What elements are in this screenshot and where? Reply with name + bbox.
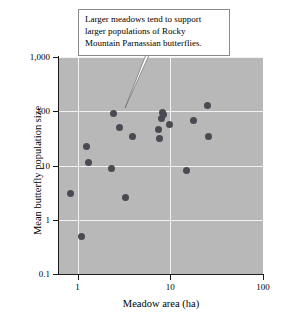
data-point xyxy=(85,159,92,166)
callout-line-3: Mountain Parnassian butterflies. xyxy=(85,38,223,50)
data-point xyxy=(129,133,136,140)
x-axis-tick xyxy=(263,274,264,280)
data-point xyxy=(110,110,117,117)
y-axis-tick xyxy=(53,220,59,221)
y-axis-tick xyxy=(53,57,59,58)
x-axis-tick-label: 100 xyxy=(256,283,270,292)
data-point xyxy=(156,135,163,142)
y-axis-tick-label: 100 xyxy=(0,107,50,116)
gridline-vertical xyxy=(170,57,171,274)
data-point xyxy=(67,190,74,197)
x-axis-tick-label: 1 xyxy=(75,283,80,292)
y-axis-tick xyxy=(53,111,59,112)
x-axis-tick xyxy=(170,274,171,280)
data-point xyxy=(155,126,162,133)
plot-area xyxy=(59,57,263,274)
callout-line-1: Larger meadows tend to support xyxy=(85,14,223,26)
data-point xyxy=(183,167,190,174)
y-axis-tick-label: 1 xyxy=(0,215,50,224)
data-point xyxy=(116,124,123,131)
y-axis-tick-label: 0.1 xyxy=(0,270,50,279)
data-point xyxy=(190,117,197,124)
data-point xyxy=(205,133,212,140)
data-point xyxy=(108,165,115,172)
data-point xyxy=(122,194,129,201)
scatter-plot-figure: 0.11101001,000110100 Mean butterfly popu… xyxy=(0,0,291,320)
y-axis-tick-label: 10 xyxy=(0,161,50,170)
y-axis-tick-label: 1,000 xyxy=(0,53,50,62)
x-axis-title: Meadow area (ha) xyxy=(59,298,263,309)
data-point xyxy=(78,233,85,240)
y-axis-tick xyxy=(53,166,59,167)
callout-line-2: larger populations of Rocky xyxy=(85,26,223,38)
gridline-horizontal xyxy=(59,57,263,58)
data-point xyxy=(160,111,167,118)
trend-callout-box: Larger meadows tend to support larger po… xyxy=(78,9,230,56)
y-axis-tick xyxy=(53,274,59,275)
gridline-vertical xyxy=(78,57,79,274)
data-point xyxy=(83,143,90,150)
x-axis-line xyxy=(58,274,264,275)
data-point xyxy=(204,102,211,109)
y-axis-title: Mean butterfly population size xyxy=(32,71,43,271)
x-axis-tick-label: 10 xyxy=(166,283,175,292)
gridline-horizontal xyxy=(59,220,263,221)
callout-leader-line xyxy=(120,52,150,108)
x-axis-tick xyxy=(78,274,79,280)
data-point xyxy=(166,121,173,128)
